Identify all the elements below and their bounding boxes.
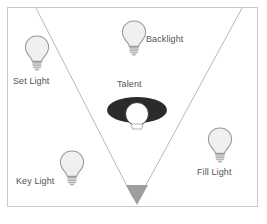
- lighting-diagram-canvas: Set Light Backlight Talent Fill Light Ke…: [0, 0, 267, 224]
- talent-figure: [107, 97, 167, 129]
- talent-head: [126, 103, 149, 126]
- label-talent: Talent: [117, 79, 142, 89]
- label-key-light: Key Light: [16, 176, 54, 186]
- backlight-bulb-icon: [122, 21, 145, 56]
- label-set-light: Set Light: [13, 76, 49, 86]
- camera-triangle-marker: [126, 185, 148, 205]
- key-light-bulb-icon: [60, 151, 83, 186]
- label-fill-light: Fill Light: [197, 167, 232, 177]
- fill-light-bulb-icon: [208, 128, 231, 163]
- set-light-bulb-icon: [25, 36, 48, 71]
- label-backlight: Backlight: [146, 34, 183, 44]
- diagram-scene: [0, 0, 267, 224]
- talent-neck: [131, 124, 143, 129]
